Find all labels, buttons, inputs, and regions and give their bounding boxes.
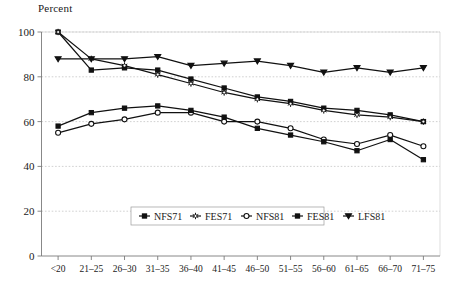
datapoint-FES81-10: [388, 137, 392, 141]
datapoint-LFS81-7: [288, 63, 294, 68]
series-LFS81: [55, 54, 426, 75]
x-tick-label-2: 26–30: [113, 264, 137, 274]
datapoint-LFS81-11: [420, 66, 426, 71]
x-tick-label-8: 56–60: [312, 264, 336, 274]
datapoint-LFS81-5: [221, 61, 227, 66]
datapoint-NFS81-0: [56, 130, 61, 135]
y-tick-label-100: 100: [18, 26, 35, 38]
datapoint-LFS81-9: [354, 66, 360, 71]
y-axis-ticks: 100806040200: [18, 26, 42, 262]
legend-label-NFS71: NFS71: [154, 211, 182, 222]
datapoint-FES81-11: [421, 158, 425, 162]
datapoint-FES81-6: [255, 126, 259, 130]
datapoint-NFS81-7: [288, 126, 293, 131]
datapoint-NFS81-11: [421, 144, 426, 149]
datapoint-NFS81-10: [388, 133, 393, 138]
legend-marker-NFS71: [142, 214, 146, 218]
datapoint-NFS81-6: [255, 119, 260, 124]
y-tick-label-20: 20: [24, 205, 36, 217]
x-tick-label-5: 41–45: [212, 264, 236, 274]
datapoint-LFS81-3: [155, 54, 161, 59]
datapoint-FES81-8: [322, 140, 326, 144]
x-axis-ticks: <2021–2526–3031–3536–4041–4546–5051–5556…: [51, 256, 436, 274]
y-tick-label-60: 60: [24, 116, 36, 128]
datapoint-LFS81-4: [188, 63, 194, 68]
datapoint-LFS81-6: [254, 59, 260, 64]
datapoint-FES81-7: [288, 133, 292, 137]
datapoint-NFS71-1: [89, 68, 93, 72]
series-line-LFS81: [58, 57, 423, 73]
legend-label-NFS81: NFS81: [256, 211, 284, 222]
data-series-layer: [55, 29, 426, 162]
legend-label-FES71: FES71: [205, 211, 232, 222]
series-line-FES81: [58, 106, 423, 160]
datapoint-LFS81-8: [321, 70, 327, 75]
x-tick-label-11: 71–75: [412, 264, 436, 274]
x-tick-label-1: 21–25: [79, 264, 103, 274]
datapoint-FES81-4: [189, 108, 193, 112]
y-tick-label-80: 80: [24, 71, 36, 83]
legend-entry-LFS81[interactable]: LFS81: [343, 211, 385, 222]
datapoint-NFS81-9: [354, 142, 359, 147]
datapoint-NFS81-1: [89, 121, 94, 126]
datapoint-FES81-5: [222, 115, 226, 119]
x-tick-label-0: <20: [51, 264, 66, 274]
datapoint-LFS81-10: [387, 70, 393, 75]
chart-legend[interactable]: NFS71FES71NFS81FES81LFS81: [131, 207, 385, 225]
datapoint-FES81-1: [89, 111, 93, 115]
x-tick-label-10: 66–70: [378, 264, 402, 274]
legend-label-LFS81: LFS81: [358, 211, 385, 222]
x-tick-label-9: 61–65: [345, 264, 369, 274]
y-tick-label-40: 40: [24, 160, 36, 172]
legend-marker-FES81: [295, 214, 299, 218]
legend-label-FES81: FES81: [307, 211, 334, 222]
chart-container: Percent 100806040200 <2021–2526–3031–353…: [0, 0, 460, 284]
datapoint-FES81-9: [355, 149, 359, 153]
series-line-NFS81: [58, 113, 423, 147]
datapoint-LFS81-2: [122, 57, 128, 62]
legend-marker-LFS81: [346, 214, 352, 219]
x-tick-label-6: 46–50: [245, 264, 269, 274]
x-tick-label-4: 36–40: [179, 264, 203, 274]
datapoint-FES81-0: [56, 124, 60, 128]
y-tick-label-0: 0: [29, 250, 35, 262]
datapoint-NFS81-3: [155, 110, 160, 115]
line-chart-plot: 100806040200 <2021–2526–3031–3536–4041–4…: [0, 0, 460, 284]
datapoint-NFS81-2: [122, 117, 127, 122]
datapoint-FES81-2: [122, 106, 126, 110]
legend-marker-NFS81: [244, 214, 249, 219]
datapoint-LFS81-0: [55, 57, 61, 62]
datapoint-NFS81-5: [222, 119, 227, 124]
x-tick-label-7: 51–55: [279, 264, 303, 274]
datapoint-FES81-3: [156, 104, 160, 108]
datapoint-LFS81-1: [88, 57, 94, 62]
x-tick-label-3: 31–35: [146, 264, 170, 274]
